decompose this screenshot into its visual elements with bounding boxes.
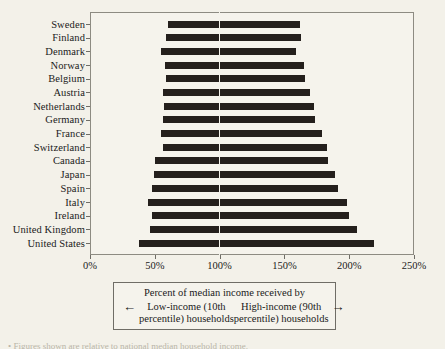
country-label-row: Germany	[0, 113, 90, 127]
country-label-row: Denmark	[0, 45, 90, 59]
country-label-row: Spain	[0, 181, 90, 195]
income-range-bar	[166, 75, 305, 82]
legend-entry-high-income: High-income (90th percentile) households…	[234, 301, 348, 325]
country-label: France	[56, 128, 90, 139]
country-label: Sweden	[51, 19, 90, 30]
country-label-row: United Kingdom	[0, 223, 90, 237]
country-label-row: Switzerland	[0, 140, 90, 154]
country-label: Belgium	[48, 73, 90, 84]
x-axis-tick	[155, 255, 156, 259]
x-axis-tick	[90, 255, 91, 259]
x-axis-tick	[349, 255, 350, 259]
country-label: Austria	[53, 87, 90, 98]
legend-high-income-line2: percentile) households	[234, 313, 329, 324]
footnote: • Figures shown are relative to national…	[8, 341, 428, 349]
x-axis-tick-label: 100%	[207, 260, 232, 272]
country-label: Finland	[52, 32, 90, 43]
legend-low-income-text: Low-income (10th percentile) households	[139, 301, 234, 325]
legend-entry-low-income: ← Low-income (10th percentile) household…	[120, 301, 234, 325]
income-range-bar	[168, 21, 300, 28]
country-label-row: Italy	[0, 195, 90, 209]
legend-low-income-line1: Low-income (10th	[147, 301, 225, 312]
income-range-bar	[165, 62, 304, 69]
x-axis: 0%50%100%150%200%250%	[90, 255, 414, 277]
country-label-row: Belgium	[0, 72, 90, 86]
arrow-right-icon: →	[329, 301, 348, 313]
x-axis-tick-label: 200%	[337, 260, 362, 272]
x-axis-tick-label: 250%	[402, 260, 427, 272]
income-range-bar	[163, 116, 316, 123]
legend-low-income-line2: percentile) households	[139, 313, 234, 324]
income-range-bar	[152, 185, 337, 192]
income-range-bar	[148, 199, 346, 206]
income-range-bar	[161, 130, 322, 137]
x-axis-tick	[414, 255, 415, 259]
median-reference-line	[219, 12, 221, 255]
x-axis-tick	[220, 255, 221, 259]
income-range-bar	[163, 89, 311, 96]
x-axis-tick	[284, 255, 285, 259]
country-label: Germany	[45, 114, 90, 125]
country-label: Canada	[53, 155, 90, 166]
country-label: Netherlands	[33, 101, 90, 112]
income-range-bar	[152, 212, 349, 219]
country-label: Denmark	[45, 46, 90, 57]
income-range-bar	[164, 103, 314, 110]
country-label: United States	[27, 238, 90, 249]
legend-box: Percent of median income received by ← L…	[113, 282, 336, 330]
country-label-row: United States	[0, 236, 90, 250]
country-label: Norway	[51, 60, 90, 71]
country-axis: SwedenFinlandDenmarkNorwayBelgiumAustria…	[0, 12, 90, 255]
legend-title: Percent of median income received by	[144, 286, 305, 299]
country-label: Ireland	[55, 210, 90, 221]
income-range-bar	[166, 34, 301, 41]
country-label-row: Norway	[0, 58, 90, 72]
legend-high-income-line1: High-income (90th	[241, 301, 321, 312]
country-label-row: Ireland	[0, 209, 90, 223]
income-range-bar	[154, 171, 335, 178]
x-axis-tick-label: 0%	[83, 260, 97, 272]
income-range-bar	[161, 48, 296, 55]
country-label-row: Austria	[0, 86, 90, 100]
country-label-row: Sweden	[0, 17, 90, 31]
income-range-bar	[150, 226, 357, 233]
income-range-bar	[139, 240, 374, 247]
country-label-row: Netherlands	[0, 99, 90, 113]
arrow-left-icon: ←	[120, 301, 139, 313]
country-label-row: Canada	[0, 154, 90, 168]
country-label-row: France	[0, 127, 90, 141]
country-label-row: Finland	[0, 31, 90, 45]
country-label: United Kingdom	[13, 224, 90, 235]
country-label: Switzerland	[34, 142, 90, 153]
income-distribution-chart: SwedenFinlandDenmarkNorwayBelgiumAustria…	[0, 0, 445, 349]
bars-layer	[90, 12, 414, 255]
income-range-bar	[163, 144, 328, 151]
x-axis-tick-label: 50%	[145, 260, 164, 272]
country-label-row: Japan	[0, 168, 90, 182]
legend-columns: ← Low-income (10th percentile) household…	[114, 299, 335, 325]
x-axis-tick-label: 150%	[272, 260, 297, 272]
legend-high-income-text: High-income (90th percentile) households	[234, 301, 329, 325]
income-range-bar	[155, 157, 329, 164]
